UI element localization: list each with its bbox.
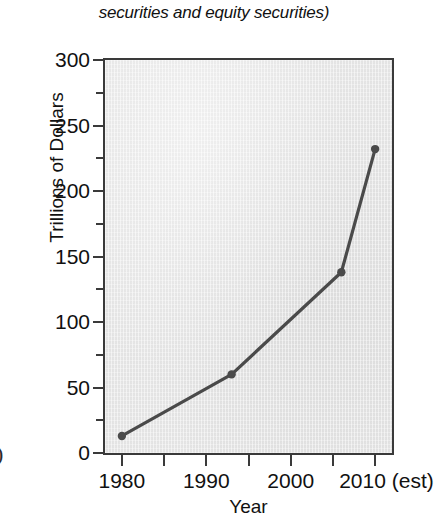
data-markers (118, 145, 380, 440)
y-tick-label: 200 (10, 180, 90, 201)
x-tick (205, 455, 207, 466)
y-tick-label: 50 (10, 377, 90, 398)
x-tick (248, 455, 250, 466)
x-tick-label: 2010 (est) (339, 469, 434, 493)
y-tick-label: 250 (10, 115, 90, 136)
x-axis-title: Year (103, 497, 394, 516)
x-tick-label: 1990 (183, 469, 230, 493)
y-tick-label: 0 (10, 442, 90, 463)
x-tick (163, 455, 165, 466)
x-tick-label: 1980 (99, 469, 146, 493)
x-tick (121, 455, 123, 466)
data-point (227, 370, 235, 378)
x-tick-label: 2000 (267, 469, 314, 493)
plot-area (103, 58, 394, 455)
data-line-svg (105, 60, 392, 453)
y-tick-label: 100 (10, 311, 90, 332)
data-line (122, 149, 375, 436)
x-tick (332, 455, 334, 466)
y-tick-label: 300 (10, 49, 90, 70)
data-point (118, 432, 126, 440)
data-point (337, 268, 345, 276)
y-tick-label: 150 (10, 246, 90, 267)
data-point (371, 145, 379, 153)
x-tick (290, 455, 292, 466)
line-chart: Trillions of Dollars 050100150200250300 … (0, 26, 428, 516)
x-tick (374, 455, 376, 466)
